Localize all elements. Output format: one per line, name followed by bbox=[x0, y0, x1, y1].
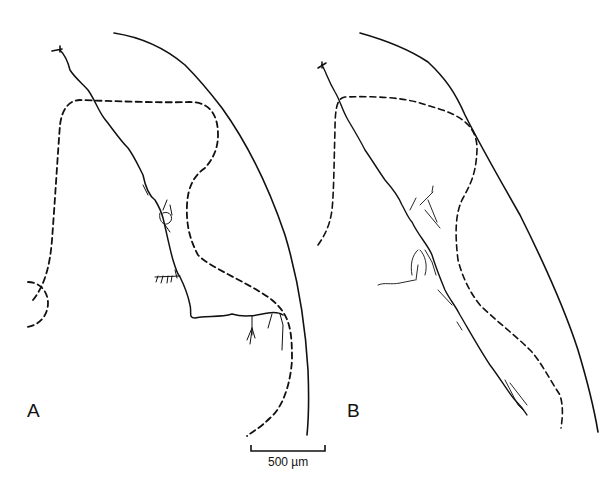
panel-a-dashed-arc bbox=[27, 282, 48, 327]
panel-b-branches bbox=[378, 186, 527, 412]
panel-a-axon-tip bbox=[52, 46, 62, 52]
panel-b-outer-boundary bbox=[360, 33, 598, 432]
scale-bar-label: 500 µm bbox=[268, 455, 308, 469]
panel-b-axon-tip bbox=[318, 62, 326, 68]
panel-a-branches bbox=[143, 185, 283, 350]
panel-a-outer-boundary bbox=[114, 33, 309, 435]
scale-bar bbox=[251, 445, 325, 451]
panel-label-a: A bbox=[27, 400, 40, 422]
panel-b-dashed-region bbox=[318, 97, 562, 428]
figure-drawing bbox=[0, 0, 616, 487]
caption-fragment bbox=[0, 480, 616, 487]
panel-a-dashed-region bbox=[33, 100, 292, 436]
panel-b-axon bbox=[322, 65, 527, 415]
panel-label-b: B bbox=[347, 400, 360, 422]
